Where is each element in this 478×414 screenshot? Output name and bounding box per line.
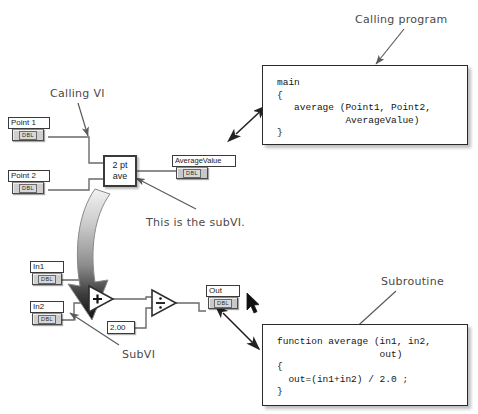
- numeric-constant-2.00[interactable]: 2.00: [107, 321, 135, 334]
- annotation-subroutine: Subroutine: [381, 275, 444, 288]
- calling-program-code: main { average (Point1, Point2, AverageV…: [263, 66, 467, 148]
- annotation-subvi: SubVI: [122, 348, 155, 361]
- operator-divide[interactable]: [152, 290, 176, 316]
- calling-program-codebox: main { average (Point1, Point2, AverageV…: [262, 65, 468, 145]
- annotation-calling-program: Calling program: [355, 13, 448, 26]
- subroutine-codebox: function average (in1, in2, out) { out=(…: [262, 324, 468, 406]
- annotation-calling-vi: Calling VI: [50, 87, 105, 100]
- operator-add[interactable]: [89, 286, 113, 312]
- diagram-canvas: Point 1 DBL Point 2 DBL AverageValue DBL…: [0, 0, 478, 414]
- subroutine-code: function average (in1, in2, out) { out=(…: [263, 325, 467, 407]
- annotation-this-is-the-subvi: This is the subVI.: [146, 216, 245, 229]
- mouse-cursor-icon: [247, 293, 259, 313]
